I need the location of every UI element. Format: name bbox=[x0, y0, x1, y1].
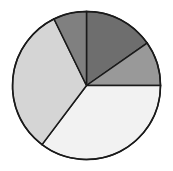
pie-chart-svg bbox=[0, 0, 173, 171]
pie-chart-figure bbox=[0, 0, 173, 171]
